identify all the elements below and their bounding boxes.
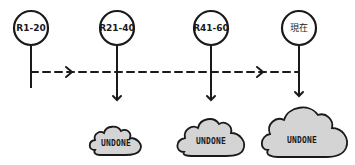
milestone-label: R1-20	[16, 23, 45, 33]
milestone-r1-20: R1-20	[14, 11, 48, 88]
cloud-undone-large: UNDONE	[262, 108, 347, 157]
milestone-r21-40: R21-40	[99, 11, 135, 100]
milestone-label: R41-60	[193, 23, 229, 33]
cloud-undone-medium: UNDONE	[177, 119, 244, 156]
cloud-undone-small: UNDONE	[90, 127, 141, 155]
timeline-diagram: R1-20 R21-40 R41-60 現在 UNDONE UNDONE UND…	[0, 0, 355, 165]
milestone-label: R21-40	[99, 23, 135, 33]
cloud-label: UNDONE	[287, 136, 317, 145]
milestone-r41-60: R41-60	[193, 11, 229, 100]
milestone-label: 現在	[290, 22, 308, 33]
cloud-label: UNDONE	[196, 137, 226, 146]
cloud-label: UNDONE	[101, 139, 131, 148]
milestone-now: 現在	[282, 11, 316, 96]
